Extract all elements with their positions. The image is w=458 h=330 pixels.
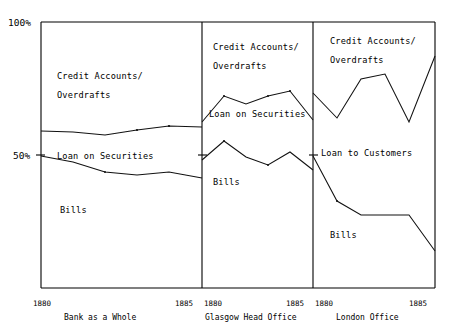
p3-label-bills: Bills — [330, 230, 357, 240]
p2-label-credit-accounts-line2: Overdrafts — [213, 61, 267, 71]
p3-xtick-end: 1885 — [409, 299, 427, 308]
p1-label-credit-accounts-line1: Credit Accounts/ — [57, 71, 143, 81]
p2-lower-point — [267, 164, 269, 166]
p1-label-credit-accounts-line2: Overdrafts — [57, 90, 111, 100]
p3-label-credit-accounts-line2: Overdrafts — [330, 55, 384, 65]
panel-bank-as-a-whole: Credit Accounts/ Overdrafts Loan on Secu… — [41, 71, 202, 215]
p3-label-loan-to-customers: Loan to Customers — [321, 148, 412, 158]
p2-label-credit-accounts-line1: Credit Accounts/ — [213, 42, 299, 52]
panel-caption-glasgow-head-office: Glasgow Head Office — [205, 313, 297, 322]
p3-upper-boundary — [313, 56, 435, 122]
p1-xtick-start: 1880 — [33, 299, 52, 308]
p1-upper-boundary — [41, 126, 202, 135]
p1-xtick-end: 1885 — [175, 299, 193, 308]
three-panel-band-chart: 100% 50% Credit Accounts/ Overdrafts Loa… — [0, 0, 458, 330]
p1-upper-point — [136, 129, 138, 131]
panel-captions: Bank as a Whole Glasgow Head Office Lond… — [64, 313, 399, 322]
y-axis-label-100: 100% — [8, 17, 31, 28]
p2-label-bills: Bills — [213, 177, 240, 187]
p2-lower-boundary — [202, 141, 313, 170]
p2-upper-point — [289, 90, 291, 92]
p3-xtick-start: 1880 — [315, 299, 334, 308]
p3-lower-point — [336, 200, 338, 202]
x-axis-labels: 1880 1885 1880 1885 1880 1885 — [33, 299, 427, 308]
p2-xtick-start: 1880 — [204, 299, 223, 308]
panel-london-office: Credit Accounts/ Overdrafts Loan to Cust… — [313, 36, 435, 251]
panel-caption-bank-as-a-whole: Bank as a Whole — [64, 313, 136, 322]
p2-upper-point — [223, 95, 225, 97]
y-axis-label-50: 50% — [13, 150, 30, 161]
p1-upper-point — [168, 125, 170, 127]
p1-lower-point — [104, 171, 106, 173]
p3-label-credit-accounts-line1: Credit Accounts/ — [330, 36, 416, 46]
panel-glasgow-head-office: Credit Accounts/ Overdrafts Loan on Secu… — [202, 42, 313, 187]
p2-lower-point — [223, 140, 225, 142]
p1-label-loan-on-securities: Loan on Securities — [57, 151, 154, 161]
panel-caption-london-office: London Office — [336, 313, 399, 322]
p2-xtick-end: 1885 — [286, 299, 304, 308]
chart-canvas: 100% 50% Credit Accounts/ Overdrafts Loa… — [0, 0, 458, 330]
p2-label-loan-on-securities: Loan on Securities — [209, 109, 306, 119]
p2-upper-point — [267, 95, 269, 97]
p1-label-bills: Bills — [60, 205, 87, 215]
